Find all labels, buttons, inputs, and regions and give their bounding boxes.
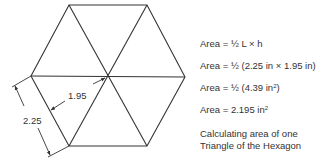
superscript: 2 xyxy=(265,105,268,111)
equation-lhs: Area xyxy=(200,60,220,71)
equation-rhs: 2.195 in xyxy=(231,104,265,115)
caption-line-2: Triangle of the Hexagon xyxy=(200,140,301,152)
equation-rhs: ½ (4.39 in xyxy=(231,82,273,93)
caption: Calculating area of one Triangle of the … xyxy=(200,128,301,152)
hexagon-diagonals xyxy=(31,5,185,146)
equation-rhs: ½ (2.25 in × 1.95 in) xyxy=(231,60,316,71)
equation-4: Area = 2.195 in2 xyxy=(200,104,268,116)
equation-lhs: Area xyxy=(200,104,220,115)
equation-rhs: ½ L × h xyxy=(231,38,263,49)
equation-lhs: Area xyxy=(200,82,220,93)
height-label: 1.95 xyxy=(68,90,87,101)
equation-lhs: Area xyxy=(200,38,220,49)
equation-2: Area = ½ (2.25 in × 1.95 in) xyxy=(200,60,316,72)
equation-3: Area = ½ (4.39 in2) xyxy=(200,82,280,94)
equation-1: Area = ½ L × h xyxy=(200,38,263,50)
side-length-label: 2.25 xyxy=(23,115,42,126)
caption-line-1: Calculating area of one xyxy=(200,128,301,140)
equation-tail: ) xyxy=(277,82,280,93)
